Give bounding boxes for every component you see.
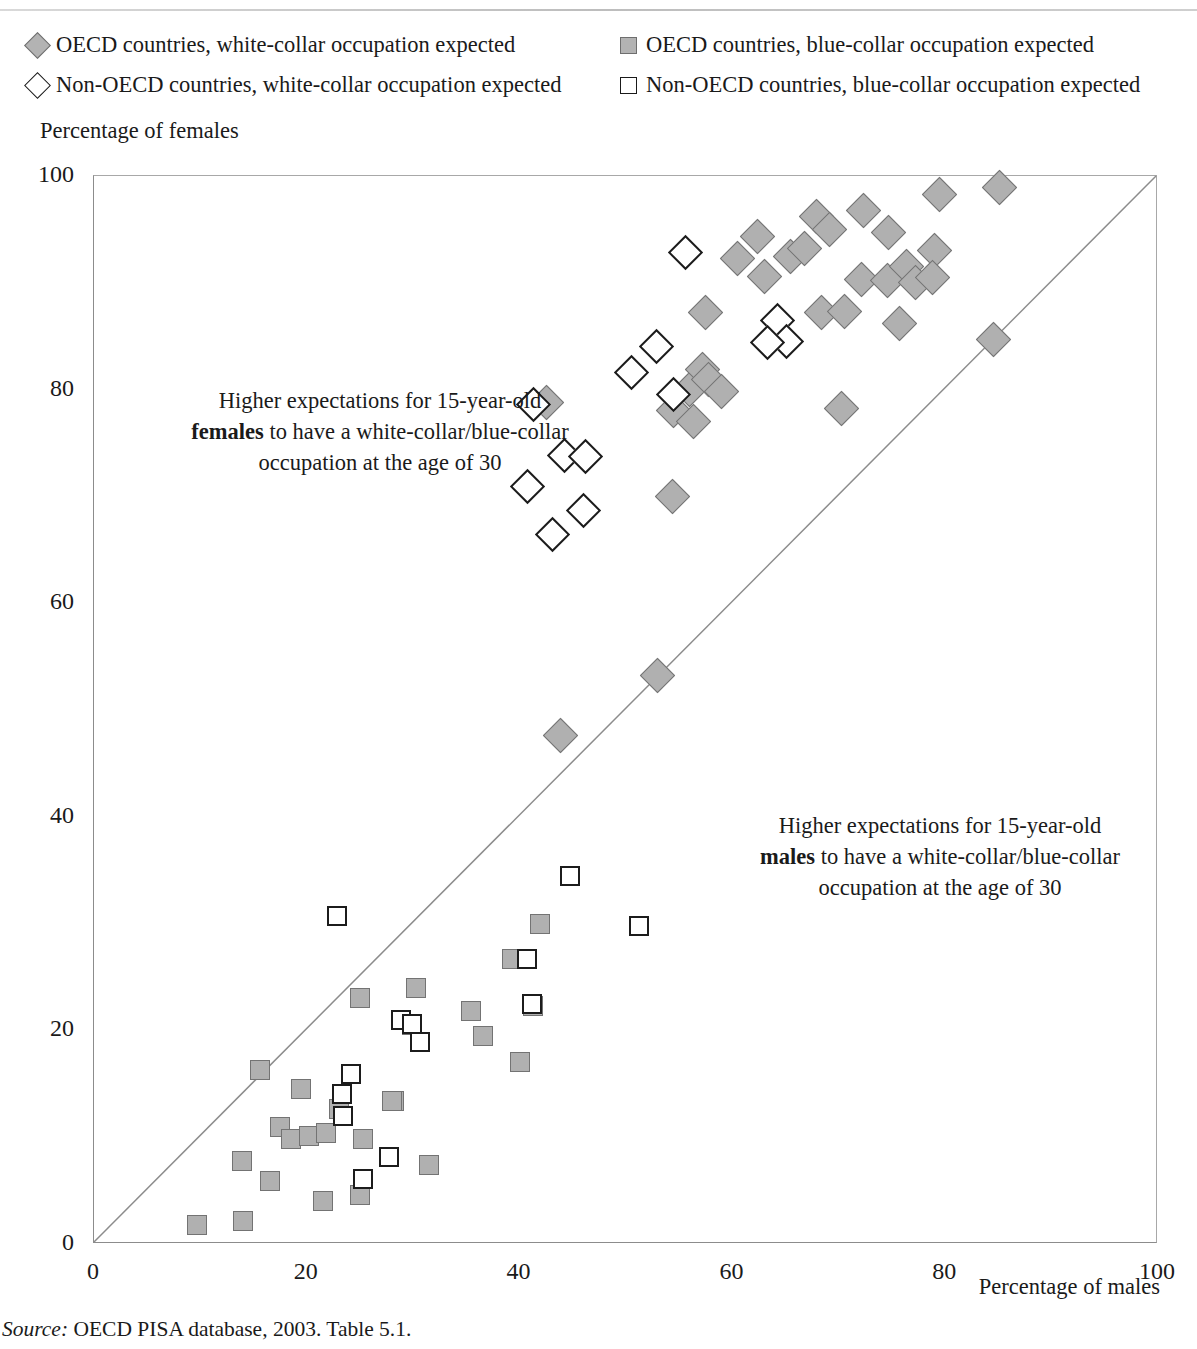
legend-entry-nonoecd-blue: Non-OECD countries, blue-collar occupati… — [620, 74, 1140, 96]
y-tick-80: 80 — [22, 375, 74, 402]
data-point-square-open-9 — [332, 1084, 352, 1104]
legend-label-oecd-white: OECD countries, white-collar occupation … — [56, 34, 515, 56]
data-point-square-filled-9 — [530, 914, 550, 934]
annotation-males-bold: males — [760, 844, 815, 869]
annotation-males-line1: Higher expectations for 15-year-old — [779, 813, 1102, 838]
x-tick-80: 80 — [932, 1258, 956, 1285]
data-point-square-filled-17 — [232, 1151, 252, 1171]
data-point-square-open-3 — [517, 949, 537, 969]
data-point-square-open-12 — [379, 1147, 399, 1167]
diamond-filled-icon — [24, 32, 51, 59]
data-point-square-open-6 — [402, 1014, 422, 1034]
y-axis-label: Percentage of females — [40, 118, 239, 144]
square-filled-icon — [620, 37, 637, 54]
data-point-square-filled-25 — [233, 1211, 253, 1231]
y-tick-100: 100 — [22, 161, 74, 188]
data-point-square-open-2 — [629, 916, 649, 936]
data-point-square-filled-6 — [510, 1052, 530, 1072]
annotation-females-line3: occupation at the age of 30 — [258, 450, 501, 475]
source-label: Source: — [2, 1317, 68, 1341]
data-point-square-open-1 — [560, 866, 580, 886]
y-tick-0: 0 — [22, 1229, 74, 1256]
data-point-square-filled-19 — [313, 1191, 333, 1211]
annotation-males-line2: to have a white-collar/blue-collar — [815, 844, 1120, 869]
legend-entry-nonoecd-white: Non-OECD countries, white-collar occupat… — [28, 74, 561, 96]
data-point-square-open-8 — [341, 1064, 361, 1084]
data-point-square-filled-24 — [187, 1215, 207, 1235]
data-point-square-open-4 — [522, 994, 542, 1014]
y-tick-40: 40 — [22, 802, 74, 829]
x-tick-0: 0 — [87, 1258, 99, 1285]
legend-label-nonoecd-blue: Non-OECD countries, blue-collar occupati… — [646, 74, 1140, 96]
annotation-females: Higher expectations for 15-year-old fema… — [150, 385, 610, 478]
data-point-square-filled-23 — [382, 1091, 402, 1111]
data-point-square-filled-10 — [291, 1079, 311, 1099]
chart-legend: OECD countries, white-collar occupation … — [0, 28, 1197, 108]
source-note: Source: OECD PISA database, 2003. Table … — [2, 1317, 411, 1342]
x-axis-ticks: 020406080100 — [93, 1258, 1157, 1292]
y-tick-20: 20 — [22, 1015, 74, 1042]
data-point-square-open-10 — [333, 1106, 353, 1126]
data-point-square-filled-21 — [419, 1155, 439, 1175]
header-rule — [0, 9, 1197, 11]
data-point-square-filled-16 — [353, 1129, 373, 1149]
x-tick-20: 20 — [294, 1258, 318, 1285]
legend-label-oecd-blue: OECD countries, blue-collar occupation e… — [646, 34, 1094, 56]
legend-entry-oecd-white: OECD countries, white-collar occupation … — [28, 34, 515, 56]
y-tick-60: 60 — [22, 588, 74, 615]
legend-label-nonoecd-white: Non-OECD countries, white-collar occupat… — [56, 74, 561, 96]
x-tick-60: 60 — [719, 1258, 743, 1285]
x-tick-100: 100 — [1139, 1258, 1175, 1285]
annotation-females-line1: Higher expectations for 15-year-old — [219, 388, 542, 413]
source-text: OECD PISA database, 2003. Table 5.1. — [68, 1317, 411, 1341]
square-open-icon — [620, 77, 637, 94]
annotation-males-line3: occupation at the age of 30 — [818, 875, 1061, 900]
data-point-square-filled-2 — [406, 978, 426, 998]
data-point-square-filled-1 — [350, 988, 370, 1008]
scatter-plot-area — [93, 175, 1157, 1243]
data-point-square-open-0 — [327, 906, 347, 926]
data-point-square-open-11 — [353, 1169, 373, 1189]
annotation-males: Higher expectations for 15-year-old male… — [710, 810, 1170, 903]
annotation-females-bold: females — [191, 419, 263, 444]
data-point-square-open-7 — [410, 1032, 430, 1052]
data-point-square-filled-18 — [260, 1171, 280, 1191]
data-point-square-filled-14 — [316, 1123, 336, 1143]
data-point-square-filled-5 — [473, 1026, 493, 1046]
diamond-open-icon — [24, 72, 51, 99]
y-axis-ticks: 020406080100 — [19, 175, 74, 1243]
x-tick-40: 40 — [507, 1258, 531, 1285]
data-point-square-filled-3 — [461, 1001, 481, 1021]
data-point-square-filled-12 — [281, 1129, 301, 1149]
legend-entry-oecd-blue: OECD countries, blue-collar occupation e… — [620, 34, 1094, 56]
annotation-females-line2: to have a white-collar/blue-collar — [264, 419, 569, 444]
data-point-square-filled-0 — [250, 1060, 270, 1080]
